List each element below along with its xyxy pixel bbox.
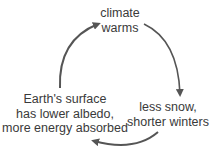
arrow-top-to-right (144, 24, 180, 94)
node-line: has lower albedo, (2, 107, 128, 122)
node-line: Earth's surface (2, 92, 128, 107)
node-line: more energy absorbed (2, 121, 128, 136)
node-line: climate (100, 6, 140, 21)
node-line: less snow, (127, 100, 209, 115)
arrow-left-to-top (60, 24, 98, 88)
node-line: warms (100, 21, 140, 36)
node-lower-albedo: Earth's surface has lower albedo, more e… (2, 92, 128, 136)
node-climate-warms: climate warms (100, 6, 140, 35)
node-less-snow: less snow, shorter winters (127, 100, 209, 129)
node-line: shorter winters (127, 115, 209, 130)
